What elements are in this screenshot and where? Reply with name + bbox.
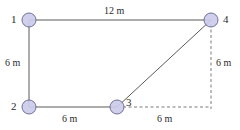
dimension-label-right: 6 m xyxy=(216,58,231,68)
members-group xyxy=(29,20,211,107)
dimension-label-bottom-right: 6 m xyxy=(157,114,172,124)
member-3-4 xyxy=(117,20,211,107)
joint-node-4[interactable] xyxy=(204,13,218,27)
joint-node-2[interactable] xyxy=(22,100,36,114)
dimension-label-bottom-left: 6 m xyxy=(62,114,77,124)
joint-label-4: 4 xyxy=(223,14,229,25)
dimension-lines-group xyxy=(123,24,211,109)
dimension-label-top: 12 m xyxy=(104,6,124,16)
joint-node-3[interactable] xyxy=(110,100,124,114)
nodes-group xyxy=(22,13,218,114)
dimension-label-left: 6 m xyxy=(5,58,20,68)
joint-node-1[interactable] xyxy=(22,13,36,27)
truss-diagram: 1234 12 m6 m6 m6 m6 m xyxy=(0,0,240,130)
joint-label-2: 2 xyxy=(11,101,17,112)
joint-label-1: 1 xyxy=(11,14,17,25)
joint-label-3: 3 xyxy=(126,97,132,108)
diagram-canvas xyxy=(0,0,240,130)
